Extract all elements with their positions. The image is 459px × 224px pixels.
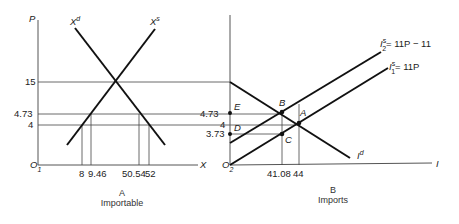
- import-supply-is1: [230, 68, 388, 165]
- panel-b-x-axis: [230, 163, 432, 165]
- caption-b-title: Imports: [318, 195, 349, 205]
- y-tick-4: 4: [28, 119, 33, 130]
- demand-curve-xd: [75, 28, 165, 145]
- x-tick-52: 52: [145, 168, 156, 179]
- origin-o1: O1: [30, 159, 41, 173]
- label-d: D: [234, 122, 241, 133]
- point-d: [228, 132, 232, 136]
- b-y-tick-4-73: 4.73: [200, 108, 219, 119]
- is2-label: Is2= 11P − 11: [380, 37, 431, 52]
- label-a: A: [299, 107, 306, 118]
- caption-b-letter: B: [330, 185, 336, 195]
- p-axis-label: P: [29, 13, 36, 24]
- b-y-tick-3-73: 3.73: [206, 128, 225, 139]
- point-c: [280, 132, 285, 137]
- x-tick-41-08: 41.08: [267, 168, 291, 179]
- point-e: [228, 111, 232, 115]
- x-tick-8: 8: [79, 168, 84, 179]
- x-axis-label: X: [199, 159, 207, 170]
- xd-label: Xd: [69, 15, 81, 27]
- import-demand-id: [230, 82, 350, 158]
- label-e: E: [234, 101, 241, 112]
- xs-label: Xs: [149, 15, 160, 27]
- id-label: Id: [357, 149, 365, 161]
- label-c: C: [285, 134, 292, 145]
- label-b: B: [279, 97, 286, 108]
- origin-o2: O2: [222, 159, 233, 173]
- point-a: [297, 121, 302, 126]
- caption-a-letter: A: [119, 188, 125, 198]
- y-tick-15: 15: [25, 76, 36, 87]
- supply-curve-xs: [67, 29, 155, 145]
- x-tick-50-54: 50.54: [122, 168, 146, 179]
- y-tick-4-73: 4.73: [14, 108, 33, 119]
- x-tick-44: 44: [293, 168, 304, 179]
- caption-a-title: Importable: [101, 198, 144, 208]
- x-tick-9-46: 9.46: [88, 168, 107, 179]
- trade-diagram: P Xd Xs 15 4.73 4 O1 8 9.46 50.54 52 X A…: [0, 0, 459, 224]
- is1-label: Is1= 11P: [389, 60, 419, 75]
- i-axis-label: I: [436, 158, 439, 169]
- point-b: [280, 110, 285, 115]
